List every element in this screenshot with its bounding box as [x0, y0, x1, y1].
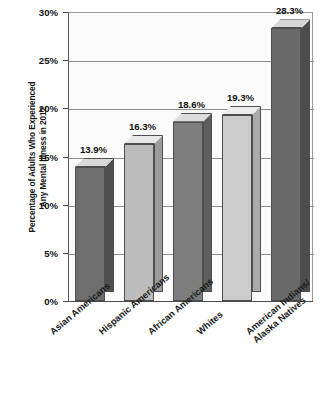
- x-axis-category-label-line: Whites: [195, 309, 225, 337]
- bar-value-label: 13.9%: [72, 144, 116, 155]
- y-axis-tick-label: 5%: [0, 247, 58, 258]
- y-axis-tick-labels: 0%5%10%15%20%25%30%: [0, 0, 62, 396]
- bar-value-label: 18.6%: [170, 99, 214, 110]
- bar-front-face: [271, 28, 301, 301]
- bar-front-face: [75, 167, 105, 301]
- bar: [173, 113, 212, 301]
- y-axis-tick-label: 25%: [0, 55, 58, 66]
- bar: [75, 158, 114, 301]
- y-axis-tick-label: 20%: [0, 103, 58, 114]
- y-axis-tick-label: 10%: [0, 199, 58, 210]
- y-axis-tick-mark: [63, 205, 68, 206]
- bar: [222, 106, 261, 301]
- x-axis-category-label: Whites: [195, 309, 225, 337]
- bar-front-face: [222, 115, 252, 301]
- bar-chart: Percentage of Adults Who Experienced Any…: [0, 0, 321, 396]
- y-axis-tick-mark: [63, 301, 68, 302]
- bar-side-face: [203, 113, 212, 292]
- bar-value-label: 16.3%: [121, 121, 165, 132]
- y-axis-tick-label: 30%: [0, 7, 58, 18]
- bar-side-face: [154, 135, 163, 292]
- y-axis-tick-mark: [63, 12, 68, 13]
- bar-side-face: [252, 106, 261, 292]
- bar-side-face: [301, 19, 310, 292]
- bar-value-label: 19.3%: [219, 92, 263, 103]
- y-axis-tick-mark: [63, 108, 68, 109]
- bar: [271, 19, 310, 301]
- bar: [124, 135, 163, 301]
- y-axis-tick-label: 15%: [0, 151, 58, 162]
- bar-side-face: [105, 158, 114, 292]
- y-axis-tick-mark: [63, 253, 68, 254]
- bar-front-face: [173, 122, 203, 301]
- y-axis-tick-mark: [63, 60, 68, 61]
- bar-front-face: [124, 144, 154, 301]
- y-axis-tick-label: 0%: [0, 296, 58, 307]
- y-axis-tick-mark: [63, 157, 68, 158]
- plot-area: [68, 12, 313, 301]
- bar-value-label: 28.3%: [268, 5, 312, 16]
